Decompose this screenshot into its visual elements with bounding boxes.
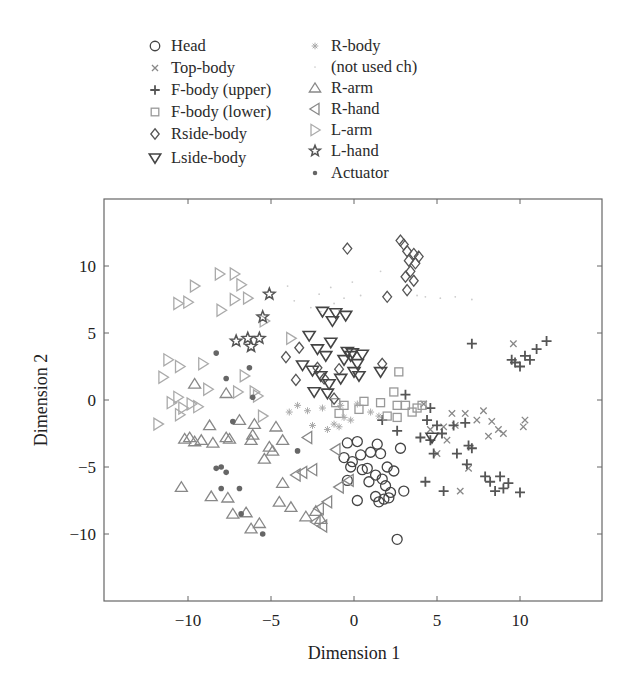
dot-icon (305, 163, 325, 183)
legend-item: Lside-body (145, 145, 271, 171)
triangle-right-icon (305, 120, 325, 140)
legend-item: Rside-body (145, 123, 271, 145)
y-tick-label: −5 (78, 458, 96, 477)
y-tick-label: 5 (88, 324, 97, 343)
series-f-body-upper (377, 336, 551, 497)
y-tick-label: 10 (79, 257, 96, 276)
series-lside-body (297, 307, 438, 443)
x-tick-label: −10 (175, 611, 202, 630)
legend-item: (not used ch) (305, 56, 417, 77)
series-r-arm (175, 379, 326, 533)
legend-label: Lside-body (171, 147, 246, 169)
data-points (154, 235, 552, 544)
series-not-used-ch (287, 270, 473, 312)
legend-label: F-body (lower) (171, 101, 271, 123)
circle-icon (145, 36, 165, 56)
legend-item: R-body (305, 35, 417, 56)
star-icon (305, 141, 325, 161)
legend-item: F-body (upper) (145, 79, 271, 101)
y-tick-label: 0 (88, 391, 97, 410)
legend-label: Actuator (331, 162, 389, 184)
triangle-left-icon (305, 99, 325, 119)
triangle-down-icon (145, 148, 165, 168)
triangle-up-icon (305, 78, 325, 98)
legend-label: R-body (331, 35, 381, 57)
legend-label: Top-body (171, 57, 235, 79)
series-head (339, 437, 409, 545)
legend-label: (not used ch) (331, 56, 417, 78)
diamond-icon (145, 124, 165, 144)
legend-item: Top-body (145, 57, 271, 79)
y-axis-label: Dimension 2 (31, 354, 51, 447)
asterisk-icon (305, 36, 325, 56)
dot-small-icon (305, 57, 325, 77)
square-icon (145, 102, 165, 122)
legend-item: Head (145, 35, 271, 57)
x-icon (145, 58, 165, 78)
x-tick-label: −5 (262, 611, 280, 630)
legend-label: R-hand (331, 98, 380, 120)
plus-icon (145, 80, 165, 100)
legend-label: L-hand (331, 140, 379, 162)
legend-left: HeadTop-bodyF-body (upper)F-body (lower)… (145, 35, 271, 171)
legend-item: L-arm (305, 119, 417, 140)
legend-item: L-hand (305, 140, 417, 162)
x-axis-label: Dimension 1 (308, 643, 401, 663)
legend-label: R-arm (331, 77, 373, 99)
legend-label: Head (171, 35, 206, 57)
legend-item: R-arm (305, 77, 417, 98)
legend-item: F-body (lower) (145, 101, 271, 123)
legend-label: L-arm (331, 119, 372, 141)
legend-item: Actuator (305, 162, 417, 183)
x-tick-label: 0 (350, 611, 359, 630)
x-tick-label: 10 (512, 611, 529, 630)
legend-label: F-body (upper) (171, 79, 271, 101)
legend-right: R-body(not used ch)R-armR-handL-armL-han… (305, 35, 417, 183)
y-tick-label: −10 (69, 525, 96, 544)
legend-item: R-hand (305, 98, 417, 119)
series-rside-body (282, 235, 424, 404)
x-tick-label: 5 (433, 611, 442, 630)
legend-label: Rside-body (171, 123, 247, 145)
